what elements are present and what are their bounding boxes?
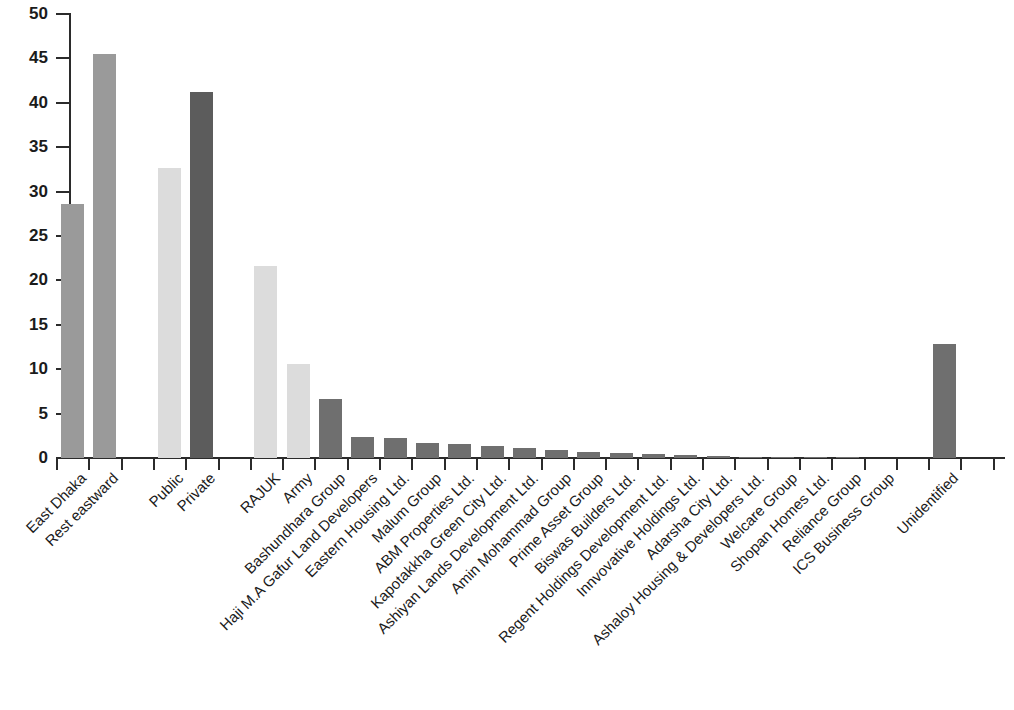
x-axis-tick bbox=[928, 459, 930, 470]
x-axis-tick bbox=[993, 459, 995, 470]
x-axis-tick bbox=[153, 459, 155, 470]
bar bbox=[93, 54, 116, 458]
y-axis-tick-label: 5 bbox=[4, 405, 48, 422]
y-axis-tick-label: 10 bbox=[4, 360, 48, 377]
y-axis-tick-label: 15 bbox=[4, 316, 48, 333]
y-axis-tick bbox=[56, 13, 69, 15]
y-axis-tick bbox=[56, 57, 69, 59]
y-axis-tick-label: 45 bbox=[4, 49, 48, 66]
bar-chart-figure: Developed land (km2) 0510152025303540455… bbox=[0, 0, 1014, 710]
x-axis-category-label-text: Unidentified bbox=[894, 470, 961, 537]
y-axis-tick-label: 30 bbox=[4, 183, 48, 200]
y-axis-tick-label: 35 bbox=[4, 138, 48, 155]
y-axis-tick-label: 50 bbox=[4, 5, 48, 22]
y-axis-tick-label: 25 bbox=[4, 227, 48, 244]
y-axis-tick-label: 40 bbox=[4, 94, 48, 111]
y-axis-tick-label: 0 bbox=[4, 449, 48, 466]
y-axis-tick bbox=[56, 146, 69, 148]
plot-area bbox=[69, 14, 1005, 458]
y-axis-tick bbox=[56, 191, 69, 193]
y-axis-tick bbox=[56, 102, 69, 104]
x-axis-category-label-text: RAJUK bbox=[237, 470, 283, 516]
bar bbox=[254, 266, 277, 458]
x-axis-tick bbox=[250, 459, 252, 470]
x-axis-tick bbox=[56, 459, 58, 470]
bar bbox=[190, 92, 213, 458]
bar bbox=[61, 204, 84, 458]
y-axis-tick-label: 20 bbox=[4, 271, 48, 288]
